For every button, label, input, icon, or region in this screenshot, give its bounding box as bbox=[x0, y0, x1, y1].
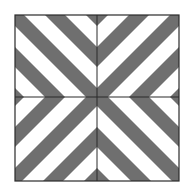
striped-square-figure bbox=[0, 0, 190, 194]
